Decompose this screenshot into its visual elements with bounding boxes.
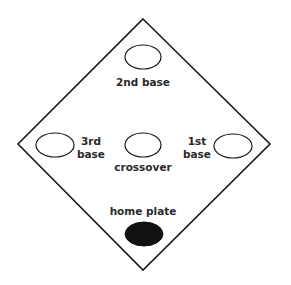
home-plate-node: home plate — [110, 205, 177, 246]
home-plate-ellipse — [125, 222, 163, 246]
crossover-node: crossover — [114, 133, 172, 173]
second-base-label: 2nd base — [116, 76, 170, 88]
third-base-node: 3rd base — [36, 133, 105, 160]
first-base-ellipse — [214, 134, 252, 158]
second-base-ellipse — [125, 45, 161, 69]
first-base-node: 1st base — [183, 134, 252, 160]
first-base-label-line2: base — [183, 148, 211, 160]
second-base-node: 2nd base — [116, 45, 170, 88]
third-base-ellipse — [36, 133, 74, 157]
third-base-label-line1: 3rd — [81, 135, 101, 147]
third-base-label-line2: base — [77, 148, 105, 160]
home-plate-label: home plate — [110, 205, 177, 217]
baseball-diamond-diagram: 2nd base 3rd base crossover 1st base hom… — [0, 0, 291, 285]
crossover-label: crossover — [114, 161, 172, 173]
first-base-label-line1: 1st — [188, 135, 207, 147]
crossover-ellipse — [125, 133, 161, 157]
